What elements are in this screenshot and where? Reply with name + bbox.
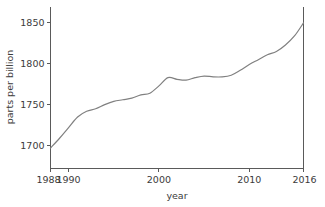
line-chart: 1700175018001850 19881990200020102016 ye… [0,0,325,207]
x-tick-label-1990: 1990 [56,174,80,185]
y-tick-label-1800: 1800 [20,58,44,69]
y-tick-label-1750: 1750 [20,99,44,110]
x-tick-label-2010: 2010 [237,174,261,185]
x-tick-label-2016: 2016 [292,174,316,185]
y-tick-label-1700: 1700 [20,140,44,151]
x-tick-label-2000: 2000 [147,174,171,185]
y-tick-label-1850: 1850 [20,17,44,28]
y-axis-title: parts per billion [4,50,15,125]
chart-page: 1700175018001850 19881990200020102016 ye… [0,0,325,207]
x-axis-title: year [166,190,187,201]
